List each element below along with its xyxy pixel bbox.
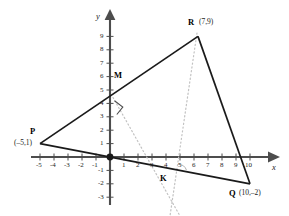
point-label-k: K (160, 174, 167, 183)
x-tick-label: -2 (78, 162, 84, 169)
point-label-m: M (114, 71, 122, 80)
x-tick-label: -1 (92, 162, 98, 169)
y-tick-label: 9 (100, 33, 104, 40)
x-tick-label: 9 (234, 162, 238, 169)
y-tick-label: 6 (100, 73, 104, 80)
point-label-r: R (188, 18, 194, 27)
y-axis-label: y (96, 12, 100, 21)
side-PR (40, 36, 198, 143)
x-tick-label: -5 (36, 162, 42, 169)
axis-group (31, 9, 280, 205)
x-tick-label: 8 (220, 162, 224, 169)
y-axis-arrowhead (105, 9, 116, 20)
y-tick-label: -1 (98, 167, 104, 174)
point-coord-q: (10,–2) (239, 189, 261, 197)
plot-canvas (0, 0, 289, 216)
y-tick-label: 2 (100, 127, 104, 134)
x-tick-label: 2 (136, 162, 140, 169)
x-tick-label: -3 (64, 162, 70, 169)
x-tick-label: 3 (150, 162, 154, 169)
triangle-pqr (40, 36, 250, 183)
point-coord-r: (7,9) (199, 18, 213, 26)
x-tick-label: 6 (192, 162, 196, 169)
x-axis-arrowhead (268, 152, 280, 163)
x-axis-label: x (272, 163, 276, 172)
y-tick-label: 5 (100, 87, 104, 94)
side-PQ (40, 144, 250, 184)
y-tick-label: 3 (100, 113, 104, 120)
x-tick-label: 4 (164, 162, 168, 169)
y-tick-label: 4 (100, 100, 104, 107)
x-tick-label: 10 (245, 162, 252, 169)
x-tick-label: 1 (122, 162, 126, 169)
x-tick-label: 7 (206, 162, 210, 169)
y-tick-label: 1 (100, 140, 104, 147)
point-coord-p: (–5,1) (14, 139, 32, 147)
y-tick-label: 7 (100, 60, 104, 67)
y-tick-label: 8 (100, 46, 104, 53)
dotted-lines-group (113, 33, 197, 216)
dotted-segment-from-R (170, 33, 197, 216)
x-tick-label: -4 (50, 162, 56, 169)
coordinate-diagram: -5 -4 -3 -2 -1 1 2 3 4 5 6 7 8 9 10 9 8 … (0, 0, 289, 216)
point-label-p: P (30, 127, 35, 136)
point-label-q: Q (229, 189, 236, 198)
y-tick-label: -2 (98, 180, 104, 187)
y-tick-label: -3 (98, 194, 104, 201)
x-tick-label: 5 (178, 162, 182, 169)
